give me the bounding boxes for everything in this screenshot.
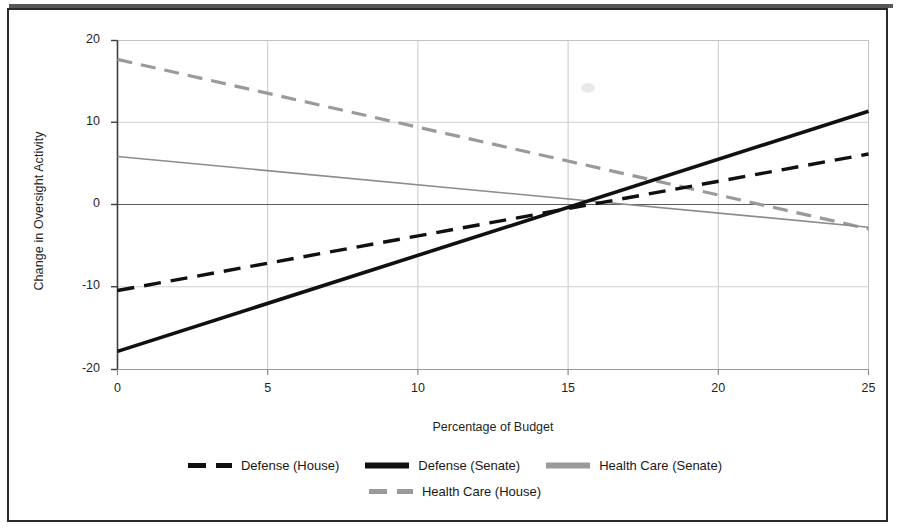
legend-item-health-care-house[interactable]: Health Care (House) (369, 484, 541, 499)
legend-label-health-care-senate: Health Care (Senate) (599, 458, 722, 473)
legend-item-health-care-senate[interactable]: Health Care (Senate) (546, 458, 722, 473)
legend-row-2: Health Care (House) (60, 478, 850, 504)
y-tick-label-10: 10 (58, 114, 100, 128)
y-tick-label-20: 20 (58, 32, 100, 46)
legend-swatch-solid-black-icon (365, 461, 409, 470)
legend-item-defense-house[interactable]: Defense (House) (188, 458, 339, 473)
figure-container: 20 10 0 -10 -20 0 5 10 15 20 25 Change i… (0, 0, 897, 532)
legend-swatch-dashed-black-icon (188, 461, 232, 470)
y-axis-ticks (111, 41, 118, 370)
legend-swatch-solid-gray-icon (546, 461, 590, 470)
legend-label-health-care-house: Health Care (House) (422, 484, 541, 499)
legend-row-1: Defense (House) Defense (Senate) Health … (60, 452, 850, 478)
legend-item-defense-senate[interactable]: Defense (Senate) (365, 458, 520, 473)
x-tick-label-20: 20 (698, 381, 738, 395)
x-tick-label-15: 15 (548, 381, 588, 395)
y-tick-label-neg20: -20 (58, 361, 100, 375)
legend-label-defense-senate: Defense (Senate) (418, 458, 520, 473)
y-tick-label-neg10: -10 (58, 278, 100, 292)
scan-artifact (581, 83, 595, 93)
x-tick-label-5: 5 (248, 381, 288, 395)
x-tick-label-0: 0 (98, 381, 138, 395)
x-axis-ticks (118, 370, 869, 376)
x-tick-label-25: 25 (849, 381, 889, 395)
x-tick-label-10: 10 (398, 381, 438, 395)
x-axis-title: Percentage of Budget (117, 420, 869, 434)
y-tick-label-0: 0 (58, 196, 100, 210)
y-axis-title: Change in Oversight Activity (32, 96, 46, 326)
chart-legend: Defense (House) Defense (Senate) Health … (60, 452, 850, 504)
legend-swatch-dashed-gray-icon (369, 487, 413, 496)
chart-plot-region: 20 10 0 -10 -20 0 5 10 15 20 25 Change i… (0, 0, 897, 532)
legend-label-defense-house: Defense (House) (241, 458, 339, 473)
